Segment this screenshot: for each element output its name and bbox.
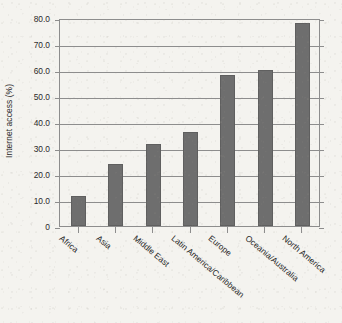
y-axis-tick-label: 60.0 xyxy=(34,66,50,76)
y-axis-tick-labels: 010.020.030.040.050.060.070.080.0 xyxy=(16,14,54,227)
y-axis-tick-label: 80.0 xyxy=(34,14,50,24)
axis-tick-mark xyxy=(319,20,324,21)
y-axis-title-text: Internet access (%) xyxy=(4,83,14,157)
x-axis-tick-label: Asia xyxy=(94,233,113,251)
plot-area xyxy=(59,19,320,227)
bar xyxy=(108,164,123,226)
bar xyxy=(258,70,273,226)
bar xyxy=(295,23,310,226)
x-axis-tick-labels: AfricaAsiaMiddle EastLatin America/Carib… xyxy=(59,233,339,321)
x-axis-tick-label: Europe xyxy=(206,233,233,258)
bar-chart-figure: Internet access (%) 010.020.030.040.050.… xyxy=(0,0,342,323)
y-axis-tick-label: 30.0 xyxy=(34,144,50,154)
y-axis-tick-label: 0 xyxy=(45,222,50,232)
y-axis-tick-label: 40.0 xyxy=(34,118,50,128)
bar xyxy=(220,75,235,226)
axis-tick-mark xyxy=(319,46,324,47)
bars-layer xyxy=(60,20,319,226)
y-axis-tick-label: 10.0 xyxy=(34,196,50,206)
bar xyxy=(71,196,86,226)
bar xyxy=(183,132,198,226)
x-axis-tick-label: Africa xyxy=(57,233,80,254)
axis-tick-mark xyxy=(319,72,324,73)
axis-tick-mark xyxy=(319,98,324,99)
x-axis-tick-label: Latin America/Caribbean xyxy=(169,233,246,300)
y-axis-tick-label: 50.0 xyxy=(34,92,50,102)
x-axis-tick-label: Middle East xyxy=(132,233,172,269)
y-axis-tick-label: 20.0 xyxy=(34,170,50,180)
axis-tick-mark xyxy=(319,124,324,125)
bar xyxy=(146,144,161,226)
y-axis-tick-label: 70.0 xyxy=(34,40,50,50)
y-axis-title: Internet access (%) xyxy=(2,14,16,227)
axis-tick-mark xyxy=(319,202,324,203)
axis-tick-mark xyxy=(319,150,324,151)
axis-tick-mark xyxy=(319,176,324,177)
